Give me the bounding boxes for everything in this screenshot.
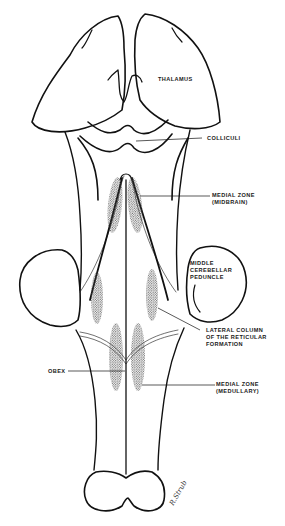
label-lateral-column-reticular-formation: LATERAL COLUMN OF THE RETICULAR FORMATIO… bbox=[206, 327, 267, 347]
label-medial-zone-medullary: MEDIAL ZONE (MEDULLARY) bbox=[216, 381, 259, 395]
brainstem-diagram bbox=[0, 0, 285, 526]
stippled-zones bbox=[91, 176, 158, 391]
colliculi bbox=[88, 120, 168, 134]
peduncle-left bbox=[20, 250, 81, 327]
label-medial-zone-midbrain: MEDIAL ZONE (MIDBRAIN) bbox=[212, 192, 255, 206]
label-middle-cerebellar-peduncle: MIDDLE CEREBELLAR PEDUNCLE bbox=[190, 260, 232, 280]
thalamus-left bbox=[32, 16, 125, 132]
thalamus-right bbox=[135, 14, 220, 129]
spinal-bulb bbox=[84, 471, 164, 511]
label-thalamus: THALAMUS bbox=[158, 76, 193, 83]
peduncle-right bbox=[187, 246, 247, 322]
label-colliculi: COLLICULI bbox=[207, 135, 240, 142]
label-obex: OBEX bbox=[48, 368, 65, 375]
